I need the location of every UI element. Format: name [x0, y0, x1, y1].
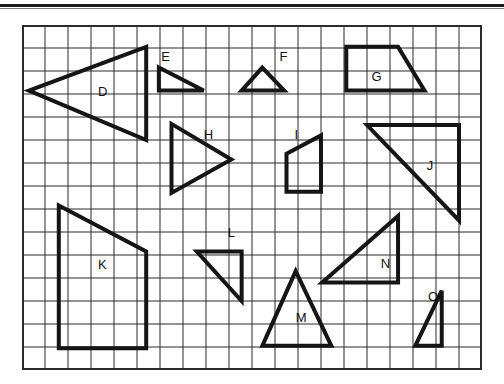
shape-label-n: N: [381, 256, 390, 271]
shape-layer: [29, 47, 459, 348]
shape-label-g: G: [372, 69, 382, 84]
shape-label-d: D: [98, 84, 107, 99]
header-rule-thin: [0, 8, 504, 9]
shape-h[interactable]: [172, 124, 232, 193]
shape-label-l: L: [228, 225, 235, 240]
shape-label-f: F: [280, 49, 288, 64]
shape-n[interactable]: [322, 216, 398, 283]
shape-label-k: K: [98, 257, 107, 272]
shape-k[interactable]: [59, 206, 146, 349]
shape-label-o: O: [428, 289, 438, 304]
header-rule: [0, 4, 504, 7]
shape-label-i: I: [295, 127, 299, 142]
shape-label-e: E: [161, 49, 170, 64]
worksheet-page: DEFGHIJKLMNO: [0, 0, 504, 384]
shape-label-h: H: [204, 127, 213, 142]
shape-label-j: J: [427, 158, 434, 173]
shape-d[interactable]: [29, 47, 146, 140]
shape-l[interactable]: [197, 252, 242, 301]
shape-label-m: M: [296, 310, 307, 325]
shapes-svg: DEFGHIJKLMNO: [22, 25, 482, 370]
shape-i[interactable]: [287, 135, 322, 191]
grid-canvas: DEFGHIJKLMNO: [22, 25, 482, 370]
